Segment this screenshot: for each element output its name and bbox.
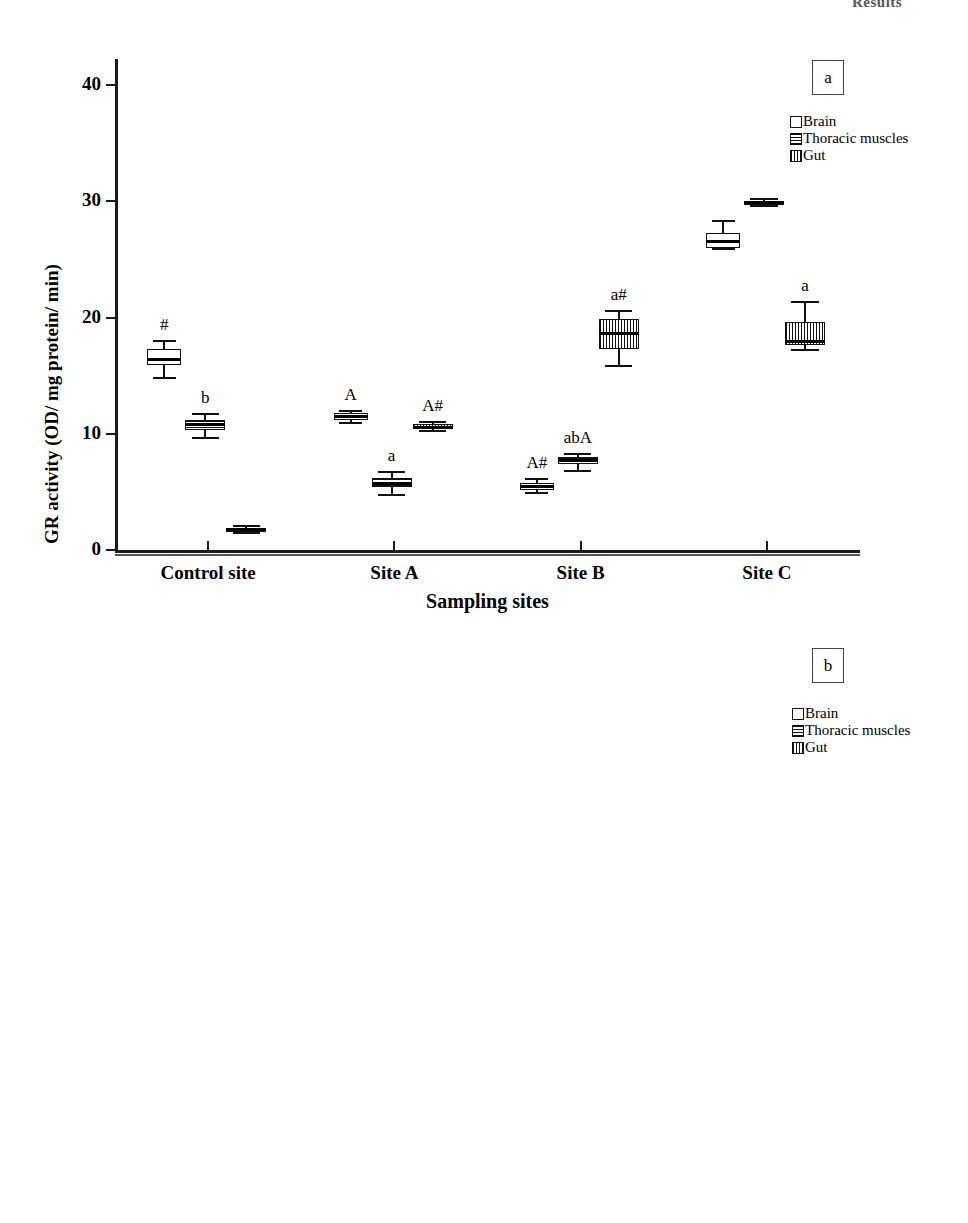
whisker-cap-lower — [419, 430, 446, 432]
y-axis-tick — [106, 84, 115, 86]
x-axis-tick — [393, 541, 395, 550]
median-line — [147, 358, 181, 361]
y-axis-line — [115, 59, 118, 552]
whisker-cap-upper — [605, 310, 632, 312]
x-axis-tick-label[interactable]: Site B — [501, 562, 661, 584]
significance-label: A — [311, 385, 391, 405]
gut-swatch-icon — [792, 742, 804, 754]
legend: BrainThoracic musclesGut — [790, 113, 908, 164]
whisker-cap-lower — [192, 437, 219, 439]
legend-item-label: Brain — [803, 113, 836, 130]
legend-item-label: Brain — [805, 705, 838, 722]
whisker-cap-lower — [153, 377, 176, 379]
plot-area-b: 0204060GR activity (OD/ mg protein/ min)… — [0, 620, 968, 1223]
legend-item-brain[interactable]: Brain — [790, 113, 908, 130]
whisker-cap-lower — [564, 470, 591, 472]
legend-item-label: Gut — [805, 739, 828, 756]
median-line — [785, 340, 825, 343]
median-line — [558, 459, 598, 462]
x-axis-tick-label[interactable]: Control site — [128, 562, 288, 584]
median-line — [334, 415, 368, 418]
y-axis-title: GR activity (OD/ mg protein/ min) — [41, 264, 63, 544]
whisker-cap-upper — [233, 525, 260, 527]
median-line — [520, 485, 554, 488]
chart-panel-b: 0204060GR activity (OD/ mg protein/ min)… — [0, 620, 968, 1223]
whisker-cap-lower — [605, 365, 632, 367]
significance-label: a# — [579, 285, 659, 305]
whisker-upper — [804, 302, 806, 322]
panel-tag-b: b — [812, 648, 844, 683]
brain-swatch-icon — [792, 708, 804, 720]
x-axis-tick — [207, 541, 209, 550]
legend-item-thoracic[interactable]: Thoracic muscles — [790, 130, 908, 147]
chart-panel-a: 010203040GR activity (OD/ mg protein/ mi… — [0, 0, 968, 620]
whisker-cap-upper — [192, 413, 219, 415]
whisker-cap-upper — [750, 198, 777, 200]
y-axis-tick-label: 30 — [49, 189, 101, 211]
whisker-cap-lower — [339, 422, 362, 424]
median-line — [599, 332, 639, 335]
median-line — [185, 423, 225, 426]
whisker-cap-lower — [712, 248, 735, 250]
legend-item-label: Thoracic muscles — [803, 130, 908, 147]
brain-swatch-icon — [790, 116, 802, 128]
thoracic-swatch-icon — [792, 725, 804, 737]
whisker-cap-lower — [791, 349, 818, 351]
whisker-upper — [618, 311, 620, 319]
legend-item-gut[interactable]: Gut — [790, 147, 908, 164]
whisker-upper — [722, 221, 724, 233]
median-line — [372, 482, 412, 485]
significance-label: a — [352, 446, 432, 466]
whisker-cap-upper — [525, 478, 548, 480]
legend-item-label: Thoracic muscles — [805, 722, 910, 739]
x-axis-tick-label[interactable]: Site C — [687, 562, 847, 584]
whisker-upper — [163, 341, 165, 349]
significance-label: A# — [393, 396, 473, 416]
whisker-lower — [618, 349, 620, 366]
y-axis-tick-label: 40 — [49, 73, 101, 95]
whisker-cap-upper — [791, 301, 818, 303]
whisker-cap-lower — [378, 494, 405, 496]
panel-tag-a: a — [812, 60, 844, 95]
y-axis-tick — [106, 200, 115, 202]
gut-swatch-icon — [790, 150, 802, 162]
whisker-cap-lower — [525, 492, 548, 494]
y-axis-tick — [106, 317, 115, 319]
whisker-cap-upper — [153, 340, 176, 342]
legend-item-label: Gut — [803, 147, 826, 164]
x-axis-line — [115, 550, 860, 553]
x-axis-tick — [766, 541, 768, 550]
significance-label: b — [165, 388, 245, 408]
median-line — [744, 201, 784, 204]
legend-item-brain[interactable]: Brain — [792, 705, 910, 722]
significance-label: abA — [538, 428, 618, 448]
whisker-cap-upper — [378, 471, 405, 473]
box-iqr — [147, 349, 181, 365]
legend: BrainThoracic musclesGut — [792, 705, 910, 756]
plot-area-a: 010203040GR activity (OD/ mg protein/ mi… — [0, 0, 968, 620]
median-line — [226, 528, 266, 531]
y-axis-tick — [106, 433, 115, 435]
whisker-cap-upper — [419, 421, 446, 423]
y-axis-tick — [106, 549, 115, 551]
x-axis-tick — [580, 541, 582, 550]
significance-label: a — [765, 276, 845, 296]
median-line — [413, 426, 453, 429]
x-axis-title: Sampling sites — [115, 590, 860, 613]
legend-item-gut[interactable]: Gut — [792, 739, 910, 756]
significance-label: # — [124, 315, 204, 335]
x-axis-shadow — [115, 554, 860, 556]
x-axis-tick-label[interactable]: Site A — [314, 562, 474, 584]
median-line — [706, 240, 740, 243]
whisker-cap-upper — [564, 453, 591, 455]
whisker-cap-upper — [712, 220, 735, 222]
whisker-cap-upper — [339, 410, 362, 412]
thoracic-swatch-icon — [790, 133, 802, 145]
legend-item-thoracic[interactable]: Thoracic muscles — [792, 722, 910, 739]
